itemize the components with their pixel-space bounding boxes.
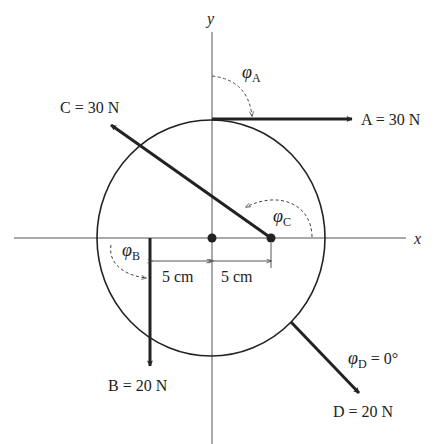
angle-b-label: φB [122, 240, 140, 263]
force-c-arrow [111, 125, 271, 238]
dim-right-label: 5 cm [221, 268, 253, 285]
force-diagram: x y A = 30 N φA C = 30 N φC B = 20 N φB … [0, 0, 434, 444]
angle-a-arc [212, 76, 252, 116]
diagram-canvas: x y A = 30 N φA C = 30 N φC B = 20 N φB … [0, 0, 434, 444]
force-d-label: D = 20 N [333, 403, 394, 420]
dim-left-label: 5 cm [162, 268, 194, 285]
angle-c-label: φC [273, 206, 291, 229]
angle-a-label: φA [242, 62, 261, 85]
center-point [208, 234, 217, 243]
y-axis-label: y [205, 10, 215, 28]
force-c-label: C = 30 N [60, 99, 120, 116]
force-b-label: B = 20 N [108, 377, 168, 394]
angle-d-label: φD = 0° [348, 348, 398, 371]
force-a-label: A = 30 N [361, 111, 421, 128]
x-axis-label: x [413, 230, 421, 247]
